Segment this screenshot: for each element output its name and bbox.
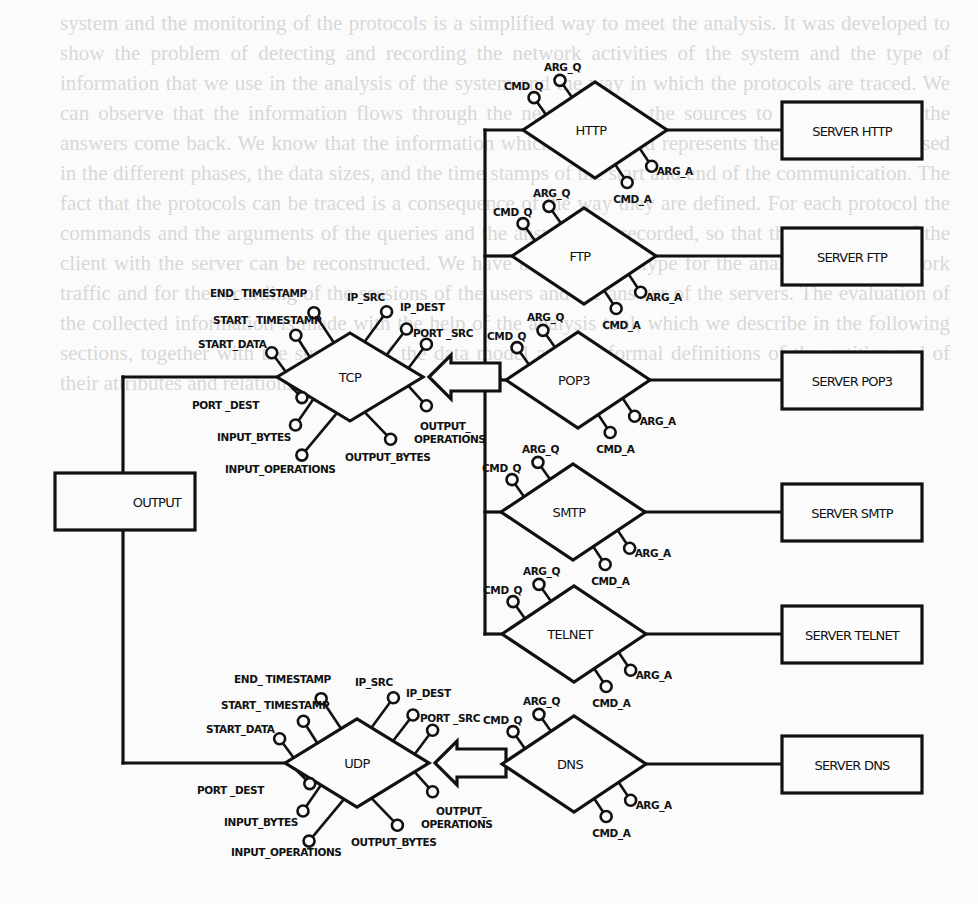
tcp-attr-7-icon xyxy=(290,420,301,431)
telnet-cmd-a-icon xyxy=(601,681,612,692)
smtp-arg-a-label: ARG_A xyxy=(635,547,672,560)
smtp-cmd-a-icon xyxy=(600,559,611,570)
tcp-attr-2-icon xyxy=(266,347,277,358)
telnet-cmd-q-icon xyxy=(508,596,519,607)
smtp-arg-q-icon xyxy=(532,457,543,468)
tcp-input-arrow-icon xyxy=(429,355,500,399)
telnet-arg-a-label: ARG_A xyxy=(636,669,673,682)
tcp-attr-label: IP_DEST xyxy=(400,301,446,314)
dns-cmd-a-label: CMD_A xyxy=(592,827,632,840)
dns-arg-a-icon xyxy=(625,795,636,806)
server-dns-label: SERVER DNS xyxy=(814,758,890,773)
smtp-cmd-q-icon xyxy=(507,474,518,485)
http-cmd-a-label: CMD_A xyxy=(613,193,653,206)
tcp-attr-label: PORT _DEST xyxy=(192,399,260,412)
output-box-label: OUTPUT xyxy=(133,495,182,510)
ftp-cmd-a-label: CMD_A xyxy=(602,319,642,332)
pop3-arg-a-icon xyxy=(629,411,640,422)
udp-attr-label: PORT _DEST xyxy=(197,784,265,797)
udp-attr-4-icon xyxy=(408,710,419,721)
server-telnet-label: SERVER TELNET xyxy=(805,628,900,643)
tcp-attr-label: OUTPUT_BYTES xyxy=(345,451,430,464)
tcp-label: TCP xyxy=(338,370,362,385)
udp-attr-9-icon xyxy=(392,820,403,831)
telnet-arg-q-label: ARG_Q xyxy=(523,565,560,578)
smtp-arg-a-icon xyxy=(624,543,635,554)
http-arg-a-label: ARG_A xyxy=(657,165,694,178)
tcp-attr-5-icon xyxy=(421,339,432,350)
tcp-attr-9-icon xyxy=(385,434,396,445)
smtp-cmd-q-label: CMD_Q xyxy=(482,462,522,475)
http-arg-q-icon xyxy=(554,75,565,86)
udp-attr-label: INPUT_OPERATIONS xyxy=(231,846,341,859)
telnet-cmd-q-label: CMD_Q xyxy=(483,584,523,597)
server-pop3-label: SERVER POP3 xyxy=(812,374,893,389)
smtp-arg-q-label: ARG_Q xyxy=(522,443,559,456)
dns-arg-q-label: ARG_Q xyxy=(523,695,560,708)
udp-attr-3-icon xyxy=(388,692,399,703)
ftp-cmd-a-icon xyxy=(611,303,622,314)
tcp-attr-6-icon xyxy=(296,392,307,403)
http-cmd-q-icon xyxy=(529,92,540,103)
server-http-label: SERVER HTTP xyxy=(812,124,892,139)
udp-attr-label: OPERATIONS xyxy=(421,818,493,830)
ftp-arg-a-icon xyxy=(635,287,646,298)
protocol-entity-diagram: OUTPUTTCPEND_ TIMESTAMPSTART_ TIMESTAMPS… xyxy=(0,0,978,904)
udp-attr-5-icon xyxy=(427,725,438,736)
dns-arg-a-label: ARG_A xyxy=(636,799,673,812)
pop3-label: POP3 xyxy=(558,373,590,388)
tcp-attr-label: OUTPUT_ xyxy=(420,420,472,433)
udp-label: UDP xyxy=(344,756,370,771)
pop3-arg-a-label: ARG_A xyxy=(640,415,677,428)
ftp-arg-q-label: ARG_Q xyxy=(533,187,570,200)
udp-attr-2-icon xyxy=(274,733,285,744)
udp-attr-7-icon xyxy=(298,806,309,817)
pop3-arg-q-icon xyxy=(537,325,548,336)
udp-attr-label: IP_SRC xyxy=(355,676,393,689)
pop3-cmd-q-label: CMD_Q xyxy=(487,330,527,343)
udp-attr-10-icon xyxy=(427,786,438,797)
pop3-cmd-a-icon xyxy=(605,427,616,438)
tcp-attr-label: START_ TIMESTAMP xyxy=(213,314,322,327)
dns-label: DNS xyxy=(557,757,584,772)
tcp-attr-label: OPERATIONS xyxy=(414,433,486,445)
telnet-cmd-a-label: CMD_A xyxy=(592,697,632,710)
telnet-arg-q-icon xyxy=(533,579,544,590)
tcp-attr-label: INPUT_BYTES xyxy=(217,431,291,444)
udp-attr-label: PORT _SRC xyxy=(420,712,481,725)
dns-arg-q-icon xyxy=(533,709,544,720)
pop3-cmd-a-label: CMD_A xyxy=(596,443,636,456)
ftp-label: FTP xyxy=(569,249,591,264)
telnet-label: TELNET xyxy=(546,627,593,642)
tcp-attr-label: IP_SRC xyxy=(347,291,385,304)
server-smtp-label: SERVER SMTP xyxy=(811,506,893,521)
udp-attr-6-icon xyxy=(304,778,315,789)
tcp-attr-label: INPUT_OPERATIONS xyxy=(225,463,335,476)
udp-attr-1-icon xyxy=(298,716,309,727)
udp-attr-label: OUTPUT_ xyxy=(436,805,488,818)
pop3-arg-q-label: ARG_Q xyxy=(527,311,564,324)
telnet-arg-a-icon xyxy=(625,665,636,676)
tcp-attr-10-icon xyxy=(421,400,432,411)
tcp-attr-4-icon xyxy=(401,324,412,335)
udp-attr-label: OUTPUT_BYTES xyxy=(351,836,436,849)
http-cmd-a-icon xyxy=(622,177,633,188)
http-cmd-q-label: CMD_Q xyxy=(504,80,544,93)
ftp-arg-q-icon xyxy=(543,201,554,212)
udp-attr-label: START_ TIMESTAMP xyxy=(221,699,330,712)
ftp-cmd-q-icon xyxy=(518,218,529,229)
dns-cmd-q-icon xyxy=(508,726,519,737)
tcp-attr-3-icon xyxy=(381,306,392,317)
udp-attr-8-stem xyxy=(309,799,344,841)
udp-input-arrow-icon xyxy=(435,741,506,785)
server-ftp-label: SERVER FTP xyxy=(817,250,888,265)
udp-attr-label: END_ TIMESTAMP xyxy=(234,673,332,686)
dns-cmd-q-label: CMD_Q xyxy=(483,714,523,727)
smtp-label: SMTP xyxy=(553,505,587,520)
tcp-attr-label: END_ TIMESTAMP xyxy=(210,287,308,300)
ftp-arg-a-label: ARG_A xyxy=(646,291,683,304)
tcp-attr-8-icon xyxy=(296,450,307,461)
dns-cmd-a-icon xyxy=(601,811,612,822)
udp-attr-label: INPUT_BYTES xyxy=(224,816,298,829)
udp-attr-label: IP_DEST xyxy=(406,687,452,700)
